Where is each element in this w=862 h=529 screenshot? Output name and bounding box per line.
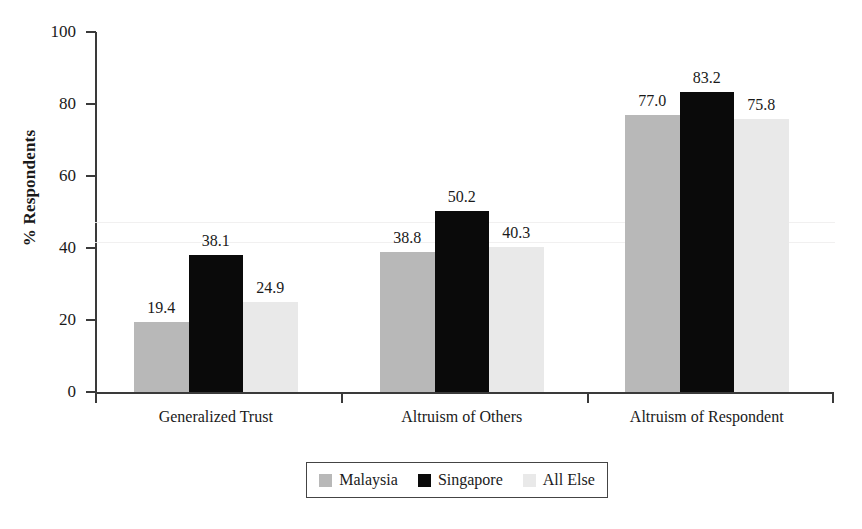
legend-swatch-icon — [523, 474, 536, 487]
bar-malaysia-1 — [134, 322, 189, 392]
bar-chart: % Respondents 020406080100 19.438.124.93… — [0, 0, 862, 529]
bar-malaysia-3 — [625, 115, 680, 392]
x-axis-category-label: Altruism of Others — [342, 408, 582, 426]
bar-allelse-2 — [489, 247, 544, 392]
bar-malaysia-2 — [380, 252, 435, 392]
legend-swatch-icon — [319, 474, 332, 487]
bar-value-label: 77.0 — [619, 93, 686, 109]
bar-value-label: 24.9 — [237, 280, 304, 296]
x-axis-tick — [587, 392, 589, 403]
x-axis-tick — [832, 392, 834, 403]
bar-value-label: 38.1 — [183, 233, 250, 249]
x-axis-line — [95, 392, 833, 394]
bar-value-label: 40.3 — [483, 225, 550, 241]
legend-swatch-icon — [418, 474, 431, 487]
bar-allelse-3 — [734, 119, 789, 392]
legend-item-singapore[interactable]: Singapore — [418, 472, 503, 488]
bar-value-label: 83.2 — [674, 70, 741, 86]
bar-value-label: 38.8 — [374, 230, 441, 246]
bar-value-label: 75.8 — [728, 97, 795, 113]
plot-area: 19.438.124.938.850.240.377.083.275.8 — [0, 0, 862, 529]
legend-item-malaysia[interactable]: Malaysia — [319, 472, 398, 488]
bar-singapore-2 — [435, 211, 490, 392]
legend-item-label: Malaysia — [339, 472, 398, 488]
x-axis-tick — [95, 392, 97, 403]
x-axis-category-label: Generalized Trust — [96, 408, 336, 426]
bar-singapore-1 — [189, 255, 244, 392]
x-axis-category-label: Altruism of Respondent — [587, 408, 827, 426]
bar-value-label: 50.2 — [429, 189, 496, 205]
x-axis-tick — [341, 392, 343, 403]
legend-item-label: All Else — [543, 472, 595, 488]
legend: Malaysia Singapore All Else — [306, 462, 608, 498]
legend-item-allelse[interactable]: All Else — [523, 472, 595, 488]
bar-allelse-1 — [243, 302, 298, 392]
bar-value-label: 19.4 — [128, 300, 195, 316]
legend-item-label: Singapore — [438, 472, 503, 488]
bar-singapore-3 — [680, 92, 735, 392]
